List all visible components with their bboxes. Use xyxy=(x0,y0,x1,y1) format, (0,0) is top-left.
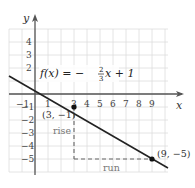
y-tick: 2 xyxy=(26,63,32,73)
y-tick: −5 xyxy=(21,154,35,164)
svg-text:f(x) = −: f(x) = − xyxy=(39,67,84,80)
x-tick: 7 xyxy=(123,99,129,109)
equation-lhs: f(x) = xyxy=(39,67,75,80)
point-9-neg5 xyxy=(149,156,154,161)
rise-label: rise xyxy=(53,125,71,136)
x-tick: 6 xyxy=(110,99,116,109)
point-label-3-neg1: (3, −1) xyxy=(42,109,76,120)
x-axis-label: x xyxy=(176,99,183,112)
y-tick: −4 xyxy=(21,141,35,151)
x-tick: 8 xyxy=(136,99,142,109)
equation-denominator: 3 xyxy=(99,75,103,83)
y-tick: −1 xyxy=(21,102,34,112)
point-label-9-neg5: (9, −5) xyxy=(157,148,191,159)
x-tick: 5 xyxy=(97,99,103,109)
y-tick: −3 xyxy=(21,128,35,138)
function-graph: x y −1 1 3 4 5 6 7 8 9 4 3 2 −1 −2 −3 −4… xyxy=(0,0,195,188)
x-tick-labels: −1 1 3 4 5 6 7 8 9 xyxy=(16,99,155,109)
y-tick: 3 xyxy=(26,50,32,60)
equation-rhs: x + 1 xyxy=(105,67,134,80)
equation-sign: − xyxy=(75,67,84,80)
x-tick: 4 xyxy=(84,99,90,109)
y-tick: 4 xyxy=(26,37,32,47)
x-tick: 9 xyxy=(149,99,155,109)
run-label: run xyxy=(103,162,120,173)
y-axis-label: y xyxy=(22,12,30,25)
y-tick: −2 xyxy=(21,115,34,125)
equation-numerator: 2 xyxy=(99,66,103,74)
